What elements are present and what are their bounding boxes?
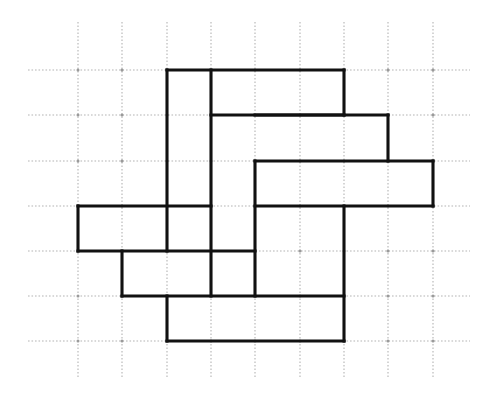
grid-node-8-5	[432, 295, 435, 298]
grid-node-8-6	[432, 340, 435, 343]
grid-node-0-6	[77, 340, 80, 343]
grid-node-1-6	[121, 340, 124, 343]
domino-tiling-figure	[0, 0, 496, 399]
grid-node-7-4	[387, 250, 390, 253]
dotted-grid-layer	[28, 22, 470, 378]
grid-node-5-4	[299, 250, 302, 253]
grid-node-8-1	[432, 114, 435, 117]
grid-node-1-2	[121, 160, 124, 163]
grid-node-8-0	[432, 69, 435, 72]
grid-node-1-0	[121, 69, 124, 72]
grid-node-0-2	[77, 160, 80, 163]
grid-node-0-1	[77, 114, 80, 117]
grid-node-7-5	[387, 295, 390, 298]
grid-node-7-6	[387, 340, 390, 343]
grid-node-0-0	[77, 69, 80, 72]
grid-node-0-5	[77, 295, 80, 298]
grid-node-8-4	[432, 250, 435, 253]
grid-node-1-1	[121, 114, 124, 117]
figure-canvas	[0, 0, 496, 399]
grid-node-7-0	[387, 69, 390, 72]
